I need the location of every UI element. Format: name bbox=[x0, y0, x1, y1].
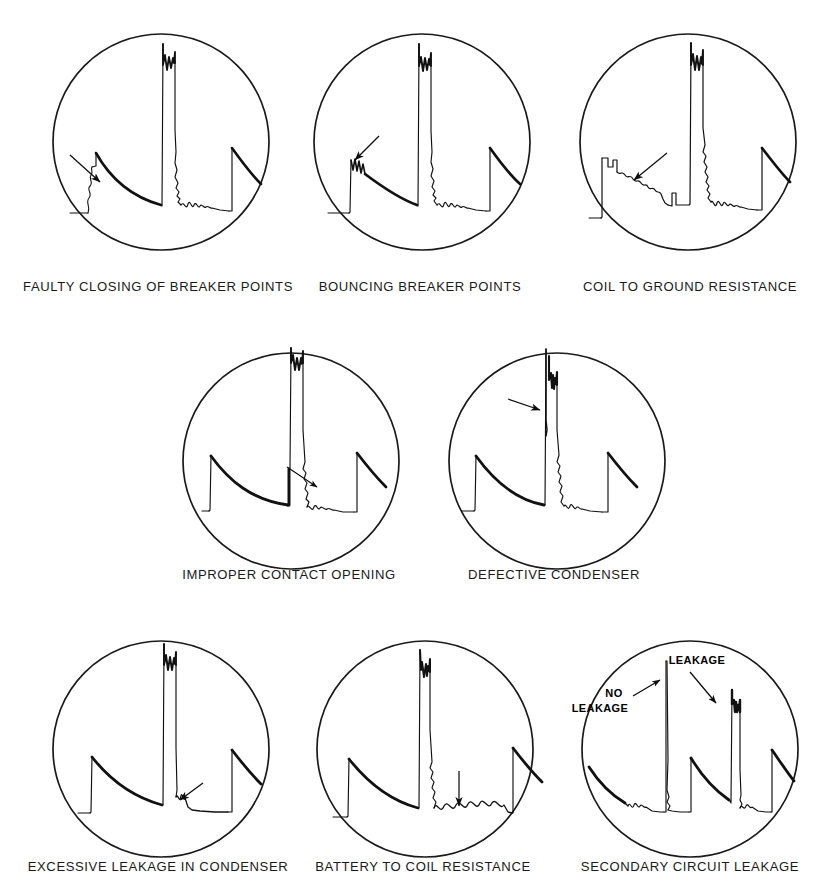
scope-bezel-circle bbox=[582, 641, 798, 857]
caption-faulty-closing-of-breaker-points: FAULTY CLOSING OF BREAKER POINTS bbox=[5, 280, 312, 294]
scope-pattern-canvas: NO LEAKAGE LEAKAGE bbox=[0, 0, 823, 888]
fault-pointer-arrow bbox=[287, 467, 317, 487]
caption-secondary-circuit-leakage: SECONDARY CIRCUIT LEAKAGE bbox=[574, 860, 807, 874]
leakage-line1: LEAKAGE bbox=[669, 654, 726, 666]
scope-bezel-circle bbox=[580, 34, 796, 250]
caption-battery-to-coil-resistance: BATTERY TO COIL RESISTANCE bbox=[307, 860, 540, 874]
waveform-trace bbox=[462, 349, 637, 512]
caption-excessive-leakage-in-condenser: EXCESSIVE LEAKAGE IN CONDENSER bbox=[5, 860, 312, 874]
no-leakage-line2: LEAKAGE bbox=[572, 702, 629, 714]
fault-pointer-arrow bbox=[355, 136, 379, 160]
fault-pointer-arrow bbox=[634, 153, 667, 180]
scope-bezel-circle bbox=[53, 34, 269, 250]
fault-pointer-arrow bbox=[508, 399, 540, 410]
no-leakage-pointer-arrow bbox=[633, 680, 660, 696]
waveform-trace bbox=[333, 650, 542, 817]
no-leakage-annotation: NO LEAKAGE bbox=[572, 680, 660, 714]
panel-improper-contact-opening bbox=[183, 348, 399, 569]
caption-bouncing-breaker-points: BOUNCING BREAKER POINTS bbox=[304, 280, 537, 294]
no-leakage-line1: NO bbox=[605, 687, 622, 699]
waveform-trace bbox=[589, 661, 794, 812]
caption-coil-to-ground-resistance: COIL TO GROUND RESISTANCE bbox=[574, 280, 807, 294]
panel-defective-condenser bbox=[449, 349, 665, 569]
waveform-trace bbox=[589, 43, 790, 218]
panel-excessive-leakage-in-condenser bbox=[53, 641, 269, 857]
ignition-oscilloscope-figure: NO LEAKAGE LEAKAGE FAULTY CLOSING OF BRE… bbox=[0, 0, 823, 888]
panel-battery-to-coil-resistance bbox=[317, 641, 542, 857]
panel-coil-to-ground-resistance bbox=[580, 34, 796, 250]
panel-secondary-circuit-leakage: NO LEAKAGE LEAKAGE bbox=[572, 641, 798, 857]
caption-defective-condenser: DEFECTIVE CONDENSER bbox=[438, 568, 671, 582]
caption-improper-contact-opening: IMPROPER CONTACT OPENING bbox=[173, 568, 406, 582]
waveform-trace bbox=[70, 44, 261, 213]
scope-bezel-circle bbox=[53, 641, 269, 857]
fault-pointer-arrow bbox=[180, 783, 203, 800]
leakage-pointer-arrow bbox=[690, 672, 716, 703]
waveform-trace bbox=[328, 44, 520, 213]
leakage-annotation: LEAKAGE bbox=[669, 654, 726, 703]
panel-bouncing-breaker-points bbox=[314, 34, 530, 250]
panel-faulty-closing-of-breaker-points bbox=[53, 34, 269, 250]
